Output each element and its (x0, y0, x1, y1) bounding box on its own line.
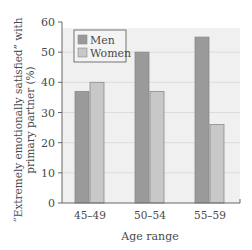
y-axis-label-line2: primary partner (%) (24, 66, 36, 173)
x-tick-label: 55–59 (194, 209, 226, 221)
y-tick-label: 20 (41, 137, 55, 150)
y-axis-label: “Extremely emotionally satisfied” with p… (12, 17, 36, 222)
y-axis-label-line1: “Extremely emotionally satisfied” with (12, 17, 24, 222)
y-tick-label: 10 (41, 167, 55, 180)
y-tick-label: 50 (41, 46, 55, 59)
bar-women-0 (90, 82, 104, 203)
legend-swatch-women (78, 48, 87, 57)
legend-swatch-men (78, 35, 87, 44)
legend-label-men: Men (90, 34, 115, 47)
bar-men-1 (135, 52, 149, 203)
y-axis-ticks: 0102030405060 (41, 16, 62, 210)
y-tick-label: 60 (41, 16, 55, 29)
y-tick-label: 30 (41, 107, 55, 120)
bar-chart: 0102030405060 45–4950–5455–59 Age range … (0, 0, 252, 250)
legend-label-women: Women (90, 47, 131, 60)
bar-men-0 (75, 91, 89, 203)
x-tick-label: 45–49 (74, 209, 106, 221)
x-tick-label: 50–54 (134, 209, 166, 221)
bar-women-2 (210, 125, 224, 203)
x-axis-label: Age range (120, 230, 178, 243)
x-axis-ticks: 45–4950–5455–59 (74, 209, 226, 221)
y-tick-label: 40 (41, 76, 55, 89)
y-tick-label: 0 (48, 197, 55, 210)
chart-canvas: 0102030405060 45–4950–5455–59 Age range … (0, 0, 252, 250)
legend: MenWomen (74, 30, 131, 62)
bar-men-2 (195, 37, 209, 203)
bar-women-1 (150, 91, 164, 203)
